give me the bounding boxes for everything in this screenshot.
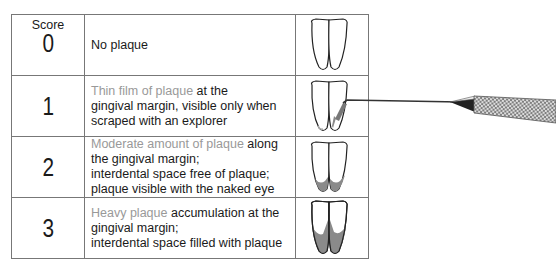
dental-explorer-probe-icon (0, 0, 556, 274)
